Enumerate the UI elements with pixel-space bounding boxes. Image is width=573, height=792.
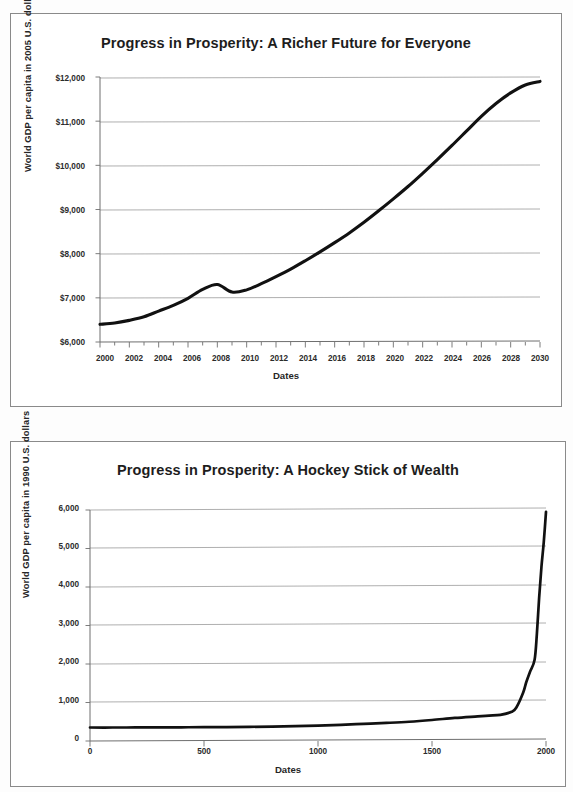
document-page: Progress in Prosperity: A Richer Future … <box>0 0 573 792</box>
data-series-line <box>100 81 540 324</box>
data-series-line <box>90 512 546 728</box>
gridlines-group <box>100 77 540 298</box>
x-axis-line <box>100 341 540 342</box>
x-tickmarks-group <box>90 741 546 747</box>
chart-plot-area <box>11 14 563 408</box>
figure-richer-future: Progress in Prosperity: A Richer Future … <box>10 13 562 407</box>
y-tickmarks-group <box>86 510 91 741</box>
y-tickmarks-group <box>96 77 101 342</box>
gridlines-group <box>90 508 546 702</box>
x-tickmarks-group <box>100 342 540 348</box>
figure-hockey-stick: Progress in Prosperity: A Hockey Stick o… <box>10 441 566 787</box>
chart-plot-area <box>11 442 567 788</box>
x-axis-line <box>90 739 546 741</box>
